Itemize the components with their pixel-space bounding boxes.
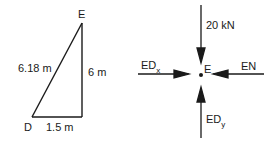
left-force-arrowhead [174, 70, 189, 78]
right-force-arrowhead [213, 70, 228, 78]
top-force-arrowhead [197, 48, 205, 63]
label-left-force: EDx [141, 60, 160, 72]
bottom-force-subscript: y [221, 120, 225, 129]
left-force-main: ED [141, 59, 156, 71]
left-force-subscript: x [156, 66, 160, 75]
label-bottom-force: EDy [206, 114, 225, 126]
bottom-force-arrowhead [197, 87, 205, 102]
label-point-e-fbd: E [204, 64, 211, 75]
label-top-force: 20 kN [206, 20, 235, 31]
label-hypotenuse: 6.18 m [18, 63, 52, 74]
label-horizontal: 1.5 m [46, 122, 74, 133]
label-vertical: 6 m [88, 67, 106, 78]
point-e-dot [199, 73, 203, 77]
label-point-d: D [24, 122, 32, 133]
bottom-force-main: ED [206, 113, 221, 125]
label-point-e-top: E [78, 9, 85, 20]
label-right-force: EN [241, 61, 256, 72]
